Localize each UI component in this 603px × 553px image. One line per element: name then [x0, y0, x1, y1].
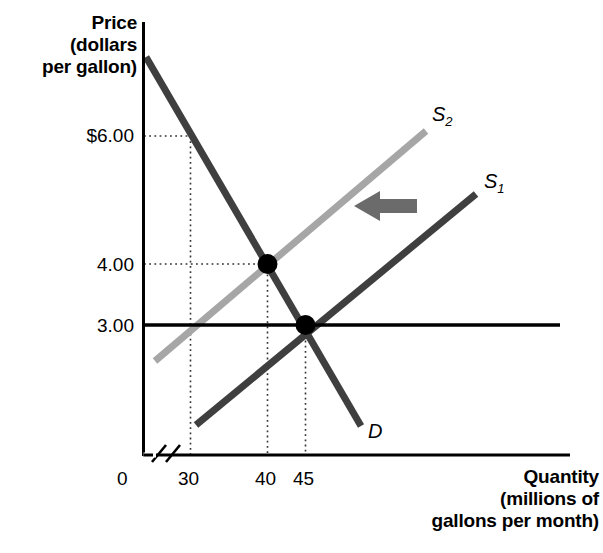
- curve-label-s2: S2: [432, 103, 453, 129]
- y-axis-title: Price(dollarsper gallon): [42, 12, 137, 78]
- curve-label-s1: S1: [484, 170, 505, 196]
- x-tick-label-45: 45: [293, 468, 314, 490]
- equilibrium-marker-original: [296, 315, 316, 335]
- x-tick-label-30: 30: [178, 468, 199, 490]
- axes: [144, 22, 571, 462]
- y-tick-label-4: 4.00: [97, 254, 134, 276]
- demand-curve-d: [146, 57, 361, 426]
- y-tick-label-3: 3.00: [97, 315, 134, 337]
- y-tick-label-6: $6.00: [86, 125, 134, 147]
- x-tick-label-40: 40: [255, 468, 276, 490]
- supply-curve-s1: [196, 194, 476, 425]
- equilibrium-marker-new: [258, 254, 278, 274]
- x-tick-label-0: 0: [117, 468, 128, 490]
- shift-arrow: [354, 191, 417, 221]
- x-axis-title: Quantity(millions ofgallons per month): [432, 466, 599, 532]
- supply-demand-chart: Price(dollarsper gallon) Quantity(millio…: [0, 0, 603, 553]
- curve-label-d: D: [368, 420, 382, 443]
